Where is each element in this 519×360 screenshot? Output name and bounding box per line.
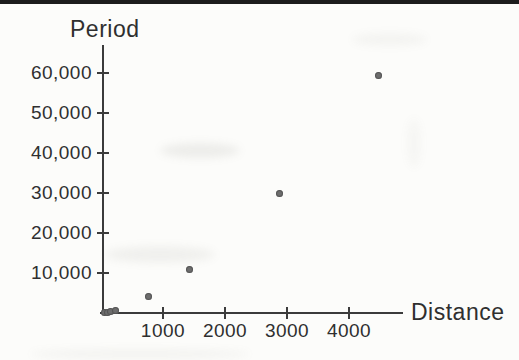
y-axis-title: Period <box>70 16 139 43</box>
x-axis-line <box>100 312 403 314</box>
y-tick <box>97 112 109 114</box>
y-tick <box>97 72 109 74</box>
y-tick-label: 60,000 <box>22 62 92 84</box>
x-tick <box>162 307 164 319</box>
y-tick-label: 50,000 <box>22 102 92 124</box>
x-tick <box>224 307 226 319</box>
y-tick <box>97 192 109 194</box>
y-tick <box>97 272 109 274</box>
data-point <box>276 190 283 197</box>
x-axis-title: Distance <box>411 299 504 326</box>
x-tick-label: 4000 <box>318 320 380 342</box>
x-tick-label: 3000 <box>256 320 318 342</box>
y-tick <box>97 152 109 154</box>
y-tick-label: 10,000 <box>22 262 92 284</box>
data-point <box>375 72 382 79</box>
data-point <box>186 266 193 273</box>
y-tick <box>97 232 109 234</box>
data-point <box>112 307 119 314</box>
x-tick-label: 2000 <box>194 320 256 342</box>
y-tick-label: 30,000 <box>22 182 92 204</box>
scatter-chart: Period Distance 10,00020,00030,00040,000… <box>0 0 519 360</box>
y-tick-label: 40,000 <box>22 142 92 164</box>
scanned-page: Period Distance 10,00020,00030,00040,000… <box>0 0 519 360</box>
x-tick <box>286 307 288 319</box>
data-point <box>145 293 152 300</box>
x-tick-label: 1000 <box>132 320 194 342</box>
y-tick-label: 20,000 <box>22 222 92 244</box>
x-tick <box>348 307 350 319</box>
